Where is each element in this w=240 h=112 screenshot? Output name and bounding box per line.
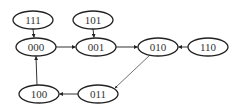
state-diagram: 111 101 000 001 010 110 100 011 [0, 0, 240, 112]
node-110: 110 [188, 38, 228, 56]
node-label-111: 111 [25, 14, 41, 26]
edge-100-to-000 [36, 57, 37, 86]
node-label-011: 011 [90, 88, 106, 100]
node-label-000: 000 [28, 41, 45, 53]
node-label-110: 110 [200, 41, 217, 53]
node-label-101: 101 [85, 14, 102, 26]
node-label-010: 010 [150, 41, 167, 53]
node-101: 101 [73, 11, 113, 29]
node-011: 011 [78, 85, 118, 103]
edge-111-to-000 [33, 29, 34, 38]
node-label-001: 001 [88, 41, 105, 53]
node-111: 111 [13, 11, 53, 29]
edge-010-to-011 [115, 55, 150, 88]
node-000: 000 [16, 38, 56, 56]
node-010: 010 [138, 38, 178, 56]
node-100: 100 [19, 85, 59, 103]
edge-101-to-001 [93, 29, 94, 38]
node-label-100: 100 [31, 88, 48, 100]
node-001: 001 [76, 38, 116, 56]
